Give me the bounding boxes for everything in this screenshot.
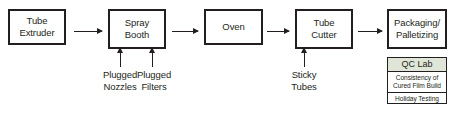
process-node-tube-cutter: Tube Cutter (295, 9, 353, 49)
process-node-label: Spray Booth (125, 17, 149, 41)
qc-lab-header: QC Lab (388, 58, 446, 72)
flow-arrow-cutter-to-packaging (358, 31, 382, 32)
input-label-plugged-filters: Plugged Filters (126, 69, 182, 94)
input-arrow-plugged-filters (152, 53, 153, 67)
flow-arrow-oven-to-cutter (267, 31, 289, 32)
process-node-packaging-palletizing: Packaging/ Palletizing (387, 9, 447, 49)
input-label-sticky-tubes: Sticky Tubes (278, 69, 330, 94)
process-flow-diagram: Tube Extruder Spray Booth Oven Tube Cutt… (0, 0, 461, 114)
process-node-label: Tube Cutter (311, 17, 336, 41)
qc-lab-row: Holiday Testing (388, 93, 446, 105)
flow-arrow-extruder-to-booth (74, 31, 102, 32)
qc-lab-row: Consistency of Cured Film Build (388, 72, 446, 93)
process-node-spray-booth: Spray Booth (108, 9, 166, 49)
process-node-label: Packaging/ Palletizing (394, 17, 440, 41)
qc-lab-table: QC Lab Consistency of Cured Film Build H… (387, 57, 447, 104)
input-arrow-plugged-nozzles (120, 53, 121, 67)
process-node-label: Oven (222, 21, 244, 33)
flow-arrow-booth-to-oven (172, 31, 198, 32)
process-node-oven: Oven (204, 9, 263, 45)
process-node-label: Tube Extruder (19, 15, 54, 39)
input-arrow-sticky-tubes (304, 53, 305, 67)
process-node-tube-extruder: Tube Extruder (8, 9, 66, 45)
